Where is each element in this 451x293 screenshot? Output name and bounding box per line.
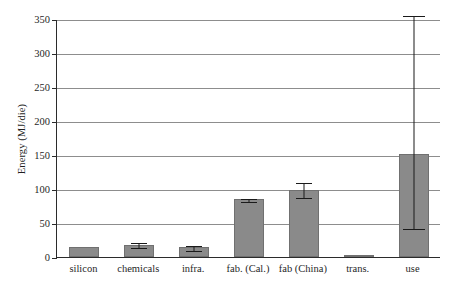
bar bbox=[344, 255, 374, 257]
bar bbox=[289, 190, 319, 257]
y-axis-tick-labels: 050100150200250300350 bbox=[16, 0, 50, 293]
y-axis-tick-label: 0 bbox=[16, 253, 50, 263]
bar-group bbox=[222, 20, 277, 257]
bar bbox=[69, 247, 99, 257]
error-bar-cap-lower bbox=[131, 248, 147, 249]
bar-group bbox=[331, 20, 386, 257]
x-axis-tick-label: fab. (Cal.) bbox=[221, 262, 276, 276]
x-axis-tick-label: chemicals bbox=[111, 262, 166, 276]
error-bar-line bbox=[413, 16, 414, 230]
y-axis-tick-label: 150 bbox=[16, 151, 50, 161]
bar-group bbox=[112, 20, 167, 257]
y-axis-tick-label: 350 bbox=[16, 15, 50, 25]
bar-group bbox=[276, 20, 331, 257]
y-axis-tick bbox=[52, 258, 57, 259]
x-axis-tick-label: use bbox=[385, 262, 440, 276]
x-axis-tick-label: trans. bbox=[330, 262, 385, 276]
bar-group bbox=[57, 20, 112, 257]
error-bar-cap-lower bbox=[186, 251, 202, 252]
scan-edge-top bbox=[0, 0, 451, 3]
bar bbox=[234, 199, 264, 257]
error-bar-cap-upper bbox=[131, 243, 147, 244]
bar-group bbox=[167, 20, 222, 257]
y-axis-tick-label: 50 bbox=[16, 219, 50, 229]
error-bar-cap-upper bbox=[403, 16, 425, 17]
error-bar-cap-lower bbox=[241, 202, 257, 203]
error-bar-cap-upper bbox=[296, 183, 312, 184]
error-bar-cap-lower bbox=[403, 229, 425, 230]
bar-chart: Energy (MJ/die) 050100150200250300350 si… bbox=[0, 0, 451, 293]
error-bar-cap-lower bbox=[296, 198, 312, 199]
x-axis-tick-labels: siliconchemicalsinfra.fab. (Cal.)fab (Ch… bbox=[56, 262, 440, 282]
x-axis-tick-label: silicon bbox=[56, 262, 111, 276]
error-bar-cap-upper bbox=[241, 199, 257, 200]
error-bar-line bbox=[303, 183, 304, 198]
bar-group bbox=[386, 20, 441, 257]
plot-area bbox=[56, 20, 440, 258]
y-axis-tick-label: 200 bbox=[16, 117, 50, 127]
y-axis-tick-label: 100 bbox=[16, 185, 50, 195]
error-bar-cap-upper bbox=[186, 246, 202, 247]
x-axis-tick-label: infra. bbox=[166, 262, 221, 276]
x-axis-tick-label: fab (China) bbox=[275, 262, 330, 276]
y-axis-tick-label: 300 bbox=[16, 49, 50, 59]
bars-layer bbox=[57, 20, 440, 257]
y-axis-tick-label: 250 bbox=[16, 83, 50, 93]
